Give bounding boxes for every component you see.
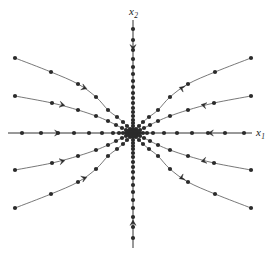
trajectory-point <box>100 131 104 135</box>
trajectory-point <box>94 148 98 152</box>
trajectory-point <box>156 108 160 112</box>
trajectory-curve <box>15 134 131 170</box>
trajectory-point <box>120 126 124 130</box>
flow-arrow-icon <box>81 174 88 182</box>
trajectory-point <box>168 148 172 152</box>
y-axis-label: x2 <box>129 6 138 17</box>
trajectory-point <box>56 131 60 135</box>
trajectory-point <box>137 138 141 142</box>
trajectory-point <box>131 236 135 240</box>
trajectory-point <box>175 131 179 135</box>
trajectory-point <box>94 95 98 99</box>
trajectory-point <box>106 143 110 147</box>
trajectory-point <box>114 139 118 143</box>
trajectory-point <box>94 114 98 118</box>
trajectory-point <box>131 215 135 219</box>
trajectory-point <box>114 123 118 127</box>
trajectory-point <box>125 138 129 142</box>
trajectory-point <box>131 79 135 83</box>
trajectory-point <box>131 110 135 114</box>
trajectory-point <box>186 154 190 158</box>
trajectory-point <box>129 133 133 137</box>
trajectory-point <box>168 167 172 171</box>
flow-arrow-icon <box>178 84 185 92</box>
trajectory-point <box>131 114 135 118</box>
trajectory-point <box>76 108 80 112</box>
trajectory-point <box>50 101 54 105</box>
trajectory-curve <box>15 58 131 131</box>
trajectory-point <box>145 131 149 135</box>
trajectory-point <box>162 131 166 135</box>
phase-portrait-canvas <box>0 0 272 254</box>
trajectory-point <box>213 192 217 196</box>
trajectory-point <box>76 154 80 158</box>
flow-arrow-icon-glyph <box>178 174 185 182</box>
trajectory-point <box>242 131 246 135</box>
trajectory-point <box>131 170 135 174</box>
trajectory-point <box>106 108 110 112</box>
trajectory-point <box>186 108 190 112</box>
trajectory-point <box>223 131 227 135</box>
trajectory-point <box>39 131 43 135</box>
trajectory-point <box>131 190 135 194</box>
trajectory-point <box>131 176 135 180</box>
trajectory-point <box>106 119 110 123</box>
flow-arrow-icon <box>178 174 185 182</box>
trajectory-point <box>87 131 91 135</box>
trajectory-point <box>156 143 160 147</box>
x-axis-label-subscript: 1 <box>261 132 265 141</box>
trajectory-point <box>131 198 135 202</box>
trajectory-point <box>50 161 54 165</box>
trajectory-point <box>137 124 141 128</box>
trajectory-point <box>121 120 125 124</box>
trajectory-point <box>49 70 53 74</box>
trajectory-curve <box>135 135 251 208</box>
trajectory-point <box>168 114 172 118</box>
trajectory-point <box>156 154 160 158</box>
trajectory-point <box>76 180 80 184</box>
trajectory-curve <box>15 135 131 208</box>
trajectory-point <box>106 154 110 158</box>
trajectory-point <box>141 142 145 146</box>
trajectory-point <box>249 94 253 98</box>
trajectory-point <box>131 106 135 110</box>
trajectory-point <box>249 56 253 60</box>
trajectory-point <box>131 225 135 229</box>
trajectory-point <box>20 131 24 135</box>
trajectory-point <box>131 85 135 89</box>
trajectory-point <box>115 115 119 119</box>
trajectory-point <box>131 57 135 61</box>
trajectory-point <box>151 131 155 135</box>
trajectory-point <box>131 183 135 187</box>
trajectory-point <box>131 96 135 100</box>
trajectory-point <box>131 38 135 42</box>
trajectory-curve <box>135 96 251 132</box>
trajectory-curve <box>135 58 251 131</box>
trajectory-point <box>133 133 137 137</box>
trajectory-point <box>148 139 152 143</box>
trajectory-point <box>13 94 17 98</box>
trajectory-point <box>120 136 124 140</box>
trajectory-point <box>13 56 17 60</box>
trajectory-point <box>131 72 135 76</box>
flow-arrow-icon-glyph <box>81 84 88 92</box>
trajectory-point <box>131 65 135 69</box>
trajectory-point <box>142 126 146 130</box>
trajectory-point <box>147 147 151 151</box>
y-axis-label-subscript: 2 <box>134 11 138 20</box>
trajectory-point <box>131 91 135 95</box>
trajectory-point <box>186 82 190 86</box>
trajectory-point <box>131 27 135 31</box>
trajectory-point <box>213 70 217 74</box>
trajectory-point <box>72 131 76 135</box>
trajectory-point <box>190 131 194 135</box>
trajectory-point <box>212 101 216 105</box>
trajectory-point <box>141 120 145 124</box>
phase-portrait-figure: x2 x1 <box>0 0 272 254</box>
trajectory-point <box>49 192 53 196</box>
trajectory-point <box>131 206 135 210</box>
flow-arrow-icon-glyph <box>178 84 185 92</box>
trajectory-point <box>212 161 216 165</box>
trajectory-point <box>125 124 129 128</box>
trajectory-point <box>13 168 17 172</box>
